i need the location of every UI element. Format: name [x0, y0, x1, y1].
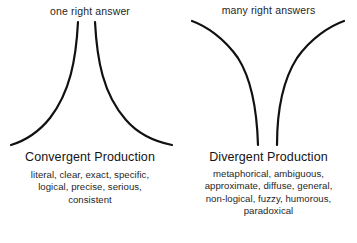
convergent-heading: Convergent Production	[0, 150, 180, 165]
divergent-description-line: approximate, diffuse, general,	[180, 180, 357, 192]
divergent-description-line: paradoxical	[180, 205, 357, 217]
divergent-description-line: non-logical, fuzzy, humorous,	[180, 193, 357, 205]
convergent-description-line: literal, clear, exact, specific,	[0, 169, 180, 181]
diagram-canvas: one right answer Convergent Production l…	[0, 0, 357, 243]
convergent-description: literal, clear, exact, specific, logical…	[0, 169, 180, 206]
convergent-description-line: logical, precise, serious,	[0, 181, 180, 193]
convergent-description-line: consistent	[0, 194, 180, 206]
divergent-panel: many right answers Divergent Production …	[180, 0, 357, 243]
convergent-top-caption: one right answer	[0, 5, 180, 17]
divergent-top-caption: many right answers	[180, 4, 357, 16]
convergent-panel: one right answer Convergent Production l…	[0, 0, 180, 243]
divergent-description: metaphorical, ambiguous, approximate, di…	[180, 168, 357, 218]
divergent-heading: Divergent Production	[180, 150, 357, 165]
divergent-description-line: metaphorical, ambiguous,	[180, 168, 357, 180]
